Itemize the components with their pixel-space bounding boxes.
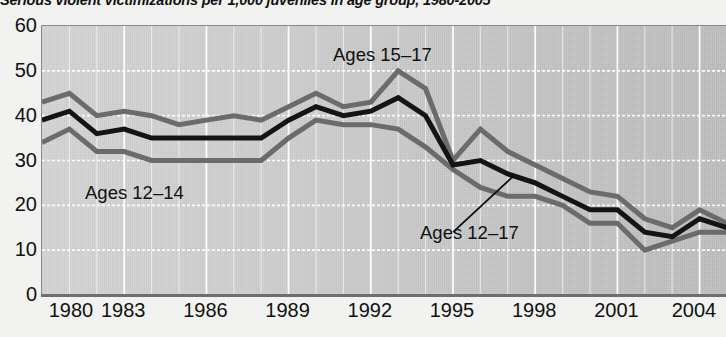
y-axis-tick-60: 60 (1, 15, 37, 35)
y-axis-tick-50: 50 (1, 60, 37, 80)
series-lines (42, 26, 726, 294)
x-axis-tick-2004: 2004 (672, 299, 717, 321)
series-line-ages-12-17 (42, 98, 726, 237)
y-axis: 6050403020100 (0, 0, 37, 337)
x-axis-tick-1992: 1992 (348, 299, 393, 321)
x-axis-tick-1998: 1998 (512, 299, 557, 321)
series-label-ages-15-17: Ages 15–17 (333, 45, 432, 65)
y-axis-tick-10: 10 (1, 239, 37, 259)
x-axis-tick-1989: 1989 (265, 299, 310, 321)
y-axis-tick-20: 20 (1, 194, 37, 214)
y-axis-tick-40: 40 (1, 105, 37, 125)
x-axis-tick-1986: 1986 (183, 299, 228, 321)
x-axis-baseline (41, 294, 726, 297)
y-axis-tick-30: 30 (1, 150, 37, 170)
x-axis-tick-1983: 1983 (101, 299, 146, 321)
chart-root: Serious violent victimizations per 1,000… (0, 0, 726, 337)
x-axis-tick-2001: 2001 (594, 299, 639, 321)
plot-area (41, 25, 726, 294)
series-line-ages-15-17 (42, 71, 726, 228)
series-label-ages-12-17: Ages 12–17 (420, 223, 519, 243)
x-axis-tick-1995: 1995 (430, 299, 475, 321)
x-axis: 198019831986198919921995199820012004 (0, 299, 726, 333)
chart-title: Serious violent victimizations per 1,000… (0, 0, 726, 9)
x-axis-tick-1980: 1980 (49, 299, 94, 321)
series-label-ages-12-14: Ages 12–14 (85, 183, 184, 203)
